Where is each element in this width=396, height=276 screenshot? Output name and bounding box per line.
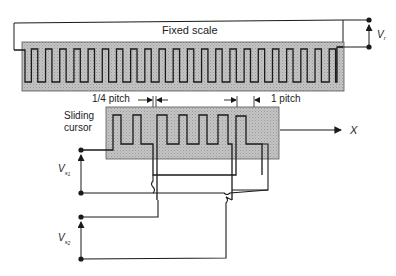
vs1-return-lead bbox=[81, 175, 155, 193]
vr-terminal-bottom bbox=[366, 44, 371, 49]
one-pitch-label: 1 pitch bbox=[271, 93, 300, 104]
fixed-scale-body bbox=[22, 42, 344, 91]
vs2-label: Vs2 bbox=[58, 232, 71, 246]
sliding-cursor-label-2: cursor bbox=[64, 122, 92, 133]
vs1-terminal-top bbox=[78, 147, 83, 152]
direction-label: X bbox=[349, 124, 358, 136]
sliding-cursor-label-1: Sliding bbox=[64, 110, 94, 121]
diagram: Fixed scale Vr 1/4 pitch 1 pitch Sliding… bbox=[0, 0, 396, 276]
quarter-pitch-label: 1/4 pitch bbox=[92, 93, 130, 104]
sliding-cursor-body bbox=[106, 107, 279, 159]
vr-terminal-top bbox=[366, 17, 371, 22]
vs1-label: Vs1 bbox=[58, 163, 71, 177]
vs1-crossover bbox=[153, 190, 268, 195]
fixed-scale-label: Fixed scale bbox=[162, 24, 218, 36]
vs2-top-lead bbox=[81, 200, 158, 217]
vr-label: Vr bbox=[377, 29, 387, 41]
vs2-bottom-lead bbox=[81, 197, 232, 259]
